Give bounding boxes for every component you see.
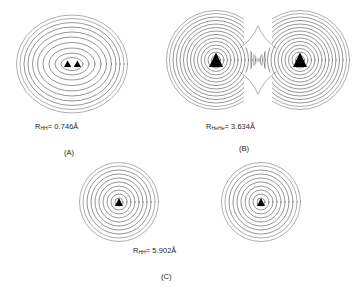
panel-c: RHH= 5.902Å (C) [72, 160, 322, 288]
nucleus-marker [74, 61, 81, 67]
panel-a-nuclei [64, 61, 81, 67]
panel-a-letter: (A) [64, 148, 74, 157]
panel-c-letter: (C) [161, 272, 172, 281]
nucleus-marker [293, 53, 307, 68]
nucleus-marker [209, 53, 223, 68]
panel-b-letter: (B) [239, 144, 249, 153]
panel-c-contour-plot-right [214, 160, 308, 244]
panel-c-distance-subscript: HH [138, 249, 145, 255]
panel-b: RHeHe= 3.634Å (B) [160, 4, 356, 149]
panel-a: RHH= 0.746Å (A) [8, 8, 168, 148]
panel-a-distance-value: = 0.746Å [48, 122, 79, 131]
panel-c-distance-label: RHH= 5.902Å [133, 246, 176, 255]
panel-a-distance-subscript: HH [40, 125, 47, 131]
panel-c-distance-value: = 5.902Å [146, 246, 177, 255]
panel-b-distance-subscript: HeHe [211, 125, 224, 131]
panel-b-distance-value: = 3.634Å [224, 122, 255, 131]
panel-a-distance-label: RHH= 0.746Å [35, 122, 78, 131]
panel-a-contours [17, 15, 128, 113]
nucleus-marker [64, 61, 71, 67]
contour-figure: RHH= 0.746Å (A) [0, 0, 360, 289]
panel-b-distance-label: RHeHe= 3.634Å [206, 122, 255, 131]
panel-c-contour-plot-left [72, 160, 166, 244]
panel-b-contour-plot [160, 6, 356, 118]
panel-a-contour-plot [10, 10, 160, 118]
